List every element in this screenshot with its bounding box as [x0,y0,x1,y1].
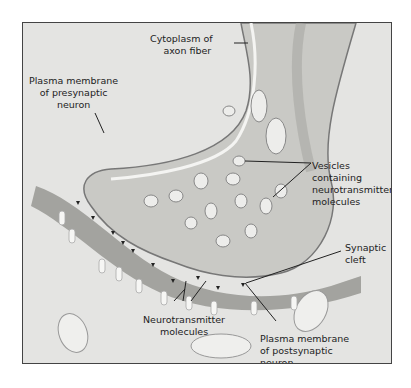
label-vesicles: Vesicles containing neurotransmitter mol… [312,160,392,208]
label-synaptic-cleft: Synaptic cleft [345,242,386,266]
label-neurotransmitter-molecules: Neurotransmitter molecules [143,314,225,338]
label-presynaptic-membrane: Plasma membrane of presynaptic neuron [29,75,118,111]
label-cytoplasm: Cytoplasm of axon fiber [150,33,213,57]
label-postsynaptic-membrane: Plasma membrane of postsynaptic neuron [260,333,349,364]
synapse-diagram: Cytoplasm of axon fiber Plasma membrane … [22,22,392,364]
